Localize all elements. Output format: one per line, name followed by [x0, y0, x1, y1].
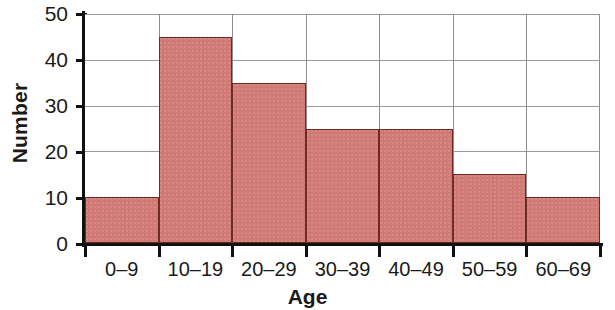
bar [232, 83, 306, 243]
x-tick-label-6: 60–69 [535, 258, 591, 281]
bar [453, 174, 526, 243]
bar [379, 129, 453, 244]
x-tick-label-3: 30–39 [315, 258, 371, 281]
y-tick-label-40: 40 [45, 48, 68, 72]
bar [306, 129, 379, 244]
y-tick-label-50: 50 [45, 2, 68, 26]
x-tick-mark-4 [378, 246, 381, 257]
x-tick-label-2: 20–29 [241, 258, 297, 281]
x-tick-label-0: 0–9 [105, 258, 138, 281]
x-tick-mark-0 [84, 246, 87, 257]
y-tick-label-30: 30 [45, 94, 68, 118]
x-axis-title-text: Age [288, 285, 328, 308]
x-tick-label-4: 40–49 [388, 258, 444, 281]
plot-area [85, 14, 600, 243]
x-tick-mark-2 [231, 246, 234, 257]
bar [159, 37, 232, 243]
y-tick-label-10: 10 [45, 186, 68, 210]
x-tick-mark-7 [599, 246, 602, 257]
x-axis-title: Age [0, 285, 615, 309]
x-tick-label-1: 10–19 [168, 258, 224, 281]
x-tick-mark-5 [452, 246, 455, 257]
y-axis-tick-labels: 50 40 30 20 10 0 [34, 0, 76, 258]
y-tick-label-20: 20 [45, 140, 68, 164]
bar [85, 197, 159, 243]
bar-series [85, 14, 600, 243]
histogram-chart: Number 50 40 30 20 10 0 0–910–1920–2930–… [0, 0, 615, 310]
x-tick-mark-1 [158, 246, 161, 257]
x-tick-mark-3 [305, 246, 308, 257]
x-tick-mark-6 [525, 246, 528, 257]
bar [526, 197, 600, 243]
y-tick-label-0: 0 [56, 232, 68, 256]
y-axis-line [82, 11, 85, 247]
x-axis-tick-labels: 0–910–1920–2930–3940–4950–5960–69 [85, 258, 600, 286]
x-tick-label-5: 50–59 [462, 258, 518, 281]
y-axis-title-text: Number [8, 82, 32, 163]
